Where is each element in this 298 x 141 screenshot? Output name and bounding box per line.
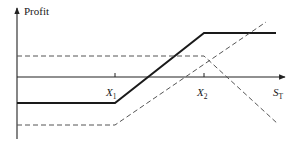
bull-spread-profit-line [17,33,276,103]
long-put-profit-line [17,22,266,125]
y-axis-label: Profit [24,5,49,17]
short-put-profit-line [17,56,278,124]
tick-label-x2: X2 [196,86,208,101]
x-ticks [115,73,204,77]
x-axis-label: ST [273,86,284,101]
tick-label-x1: X1 [105,86,117,101]
series-lines [17,22,278,125]
profit-diagram: Profit X1 X2 ST [0,0,298,141]
